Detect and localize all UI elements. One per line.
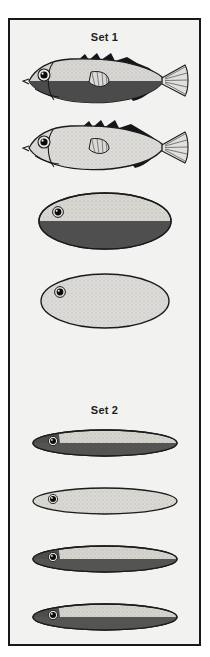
oval-drawing-4	[35, 268, 175, 334]
fish-drawing-2	[19, 115, 191, 177]
slender-drawing-8	[30, 599, 180, 635]
tail-fin-icon	[160, 132, 188, 163]
figure-root: Set 1	[0, 0, 210, 657]
eye-icon	[54, 287, 65, 298]
fish-drawing-1	[19, 48, 191, 110]
eye-icon	[52, 207, 63, 218]
mouth-icon	[23, 79, 29, 84]
eye-icon	[48, 494, 57, 503]
eye-icon	[38, 69, 50, 81]
mouth-icon	[23, 146, 29, 151]
eye-icon	[48, 610, 57, 619]
figure-plate-frame: Set 1	[8, 18, 201, 646]
set-2-label: Set 2	[10, 404, 199, 416]
oval-body	[41, 274, 169, 328]
eye-icon	[48, 436, 57, 445]
slender-drawing-5	[30, 425, 180, 461]
set-1-label: Set 1	[10, 31, 199, 43]
eye-icon	[38, 136, 50, 148]
eye-icon	[48, 552, 57, 561]
slender-drawing-6	[30, 483, 180, 519]
oval-drawing-3	[35, 188, 175, 254]
tail-fin-icon	[160, 65, 188, 96]
slender-drawing-7	[30, 541, 180, 577]
